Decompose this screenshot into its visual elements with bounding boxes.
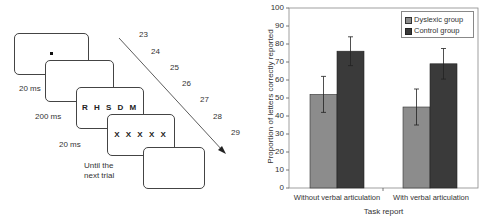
legend: Dyslexic group Control group — [401, 11, 474, 38]
legend-item-control: Control group — [405, 26, 459, 35]
legend-swatch-control — [405, 28, 412, 35]
legend-item-dyslexic: Dyslexic group — [405, 15, 463, 24]
bar-control-with — [430, 64, 457, 188]
x-category-label: With verbal articulation — [385, 193, 477, 202]
legend-label: Control group — [414, 26, 459, 35]
x-category-label: Without verbal articulation — [291, 193, 383, 202]
x-axis-label: Task report — [289, 207, 478, 216]
legend-label: Dyslexic group — [414, 15, 463, 24]
legend-swatch-dyslexic — [405, 17, 412, 24]
bar-control-without — [337, 51, 364, 188]
